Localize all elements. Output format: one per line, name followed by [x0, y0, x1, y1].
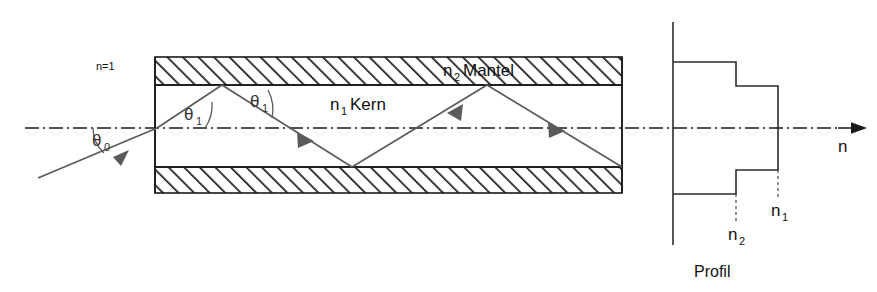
cladding-band-top	[155, 57, 622, 85]
cladding-subscript: 2	[454, 71, 460, 83]
core-subscript: 1	[341, 105, 347, 117]
theta1-second-subscript: 1	[262, 102, 268, 114]
axis-label-n: n	[838, 137, 847, 156]
ray-arrow-2	[297, 132, 314, 148]
profile-tick-label-n2: n 2	[728, 225, 745, 247]
profile-tick-label-n1: n 1	[771, 201, 788, 223]
core-symbol: n	[330, 95, 339, 114]
cladding-band-bottom	[155, 167, 622, 193]
theta1-second-symbol: θ	[250, 92, 259, 111]
angle-label-theta1-second: θ 1	[250, 92, 268, 114]
ray-arrow-3	[447, 104, 463, 121]
angle-label-theta1-first: θ 1	[184, 105, 202, 127]
profile-chart: n 2 n 1 Profil	[673, 22, 788, 280]
profile-caption: Profil	[694, 263, 730, 280]
angle-label-theta0: θ 0	[92, 131, 110, 153]
cladding-name: Mantel	[463, 61, 514, 80]
angle-arc-theta1-first	[205, 102, 212, 128]
profile-n1-subscript: 1	[782, 211, 788, 223]
outside-medium-label: n=1	[96, 60, 115, 72]
cladding-symbol: n	[443, 61, 452, 80]
profile-n2-subscript: 2	[739, 235, 745, 247]
fiber-diagram-svg: n=1 n θ 0	[0, 0, 877, 292]
theta1-first-symbol: θ	[184, 105, 193, 124]
profile-n2-symbol: n	[728, 225, 737, 244]
core-name: Kern	[350, 95, 386, 114]
profile-n1-symbol: n	[771, 201, 780, 220]
theta0-symbol: θ	[92, 131, 101, 150]
optical-fiber-figure: n=1 n θ 0	[0, 0, 877, 292]
ray-arrow-incoming	[113, 150, 129, 166]
theta1-first-subscript: 1	[196, 115, 202, 127]
theta0-subscript: 0	[104, 141, 110, 153]
core-label: n 1 Kern	[330, 95, 386, 117]
ray-arrow-4	[548, 122, 565, 138]
